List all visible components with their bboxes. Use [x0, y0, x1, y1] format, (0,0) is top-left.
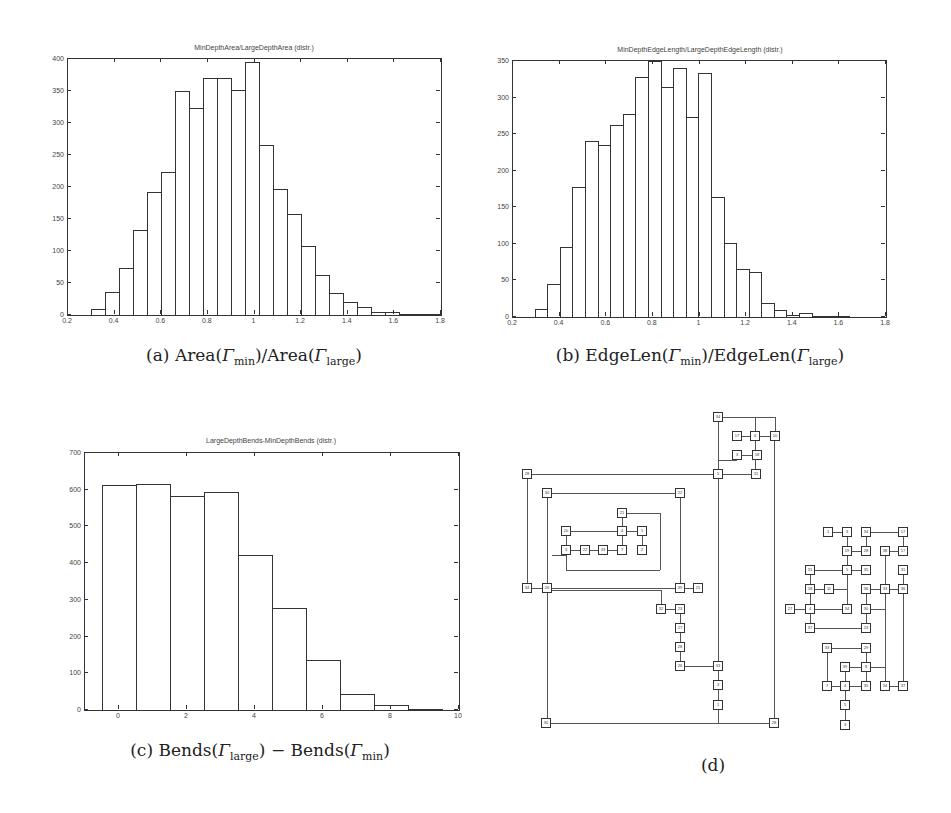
graph-node: 4 [617, 526, 627, 536]
graph-node: 39 [840, 662, 850, 672]
graph-node: 7 [822, 681, 832, 691]
graph-node: 22 [675, 488, 685, 498]
graph-node: 26 [542, 583, 552, 593]
graph-node: 27 [785, 604, 795, 614]
graph-edge [527, 474, 718, 475]
graph-node: 18 [805, 584, 815, 594]
graph-node: 5 [713, 469, 723, 479]
graph-node: 19 [842, 546, 852, 556]
graph-node: 30 [861, 604, 871, 614]
graph-node: 1 [713, 700, 723, 710]
graph-node: 33 [822, 643, 832, 653]
graph-node: 29 [861, 643, 871, 653]
graph-node: 27 [675, 623, 685, 633]
graph-node: 38 [880, 546, 890, 556]
graph-node: 8 [861, 662, 871, 672]
graph-node: 35 [861, 565, 871, 575]
graph-node: 31 [751, 469, 761, 479]
graph-node: 26 [675, 661, 685, 671]
graph-edge [845, 667, 846, 725]
graph-edge [718, 417, 775, 418]
graph-edge [810, 570, 811, 628]
graph-node: 33 [598, 545, 608, 555]
graph-node: 28 [675, 642, 685, 652]
graph-node: 32 [656, 604, 666, 614]
graph-edge [527, 588, 698, 589]
graph-node: 33 [713, 661, 723, 671]
graph-edge [552, 555, 566, 556]
graph-node: 2 [637, 545, 647, 555]
graph-edge [774, 436, 775, 723]
orthogonal-graph-drawing: 3417610318531283022212041322337234263925… [0, 0, 951, 813]
graph-node: 23 [675, 604, 685, 614]
graph-node: 1 [823, 527, 833, 537]
graph-edge [547, 590, 661, 591]
graph-node: 33 [880, 584, 890, 594]
graph-node: 34 [861, 527, 871, 537]
graph-node: 31 [805, 565, 815, 575]
graph-node: 34 [522, 583, 532, 593]
graph-node: 3 [713, 680, 723, 690]
graph-node: 3 [732, 450, 742, 460]
graph-node: 39 [675, 583, 685, 593]
graph-node: 20 [561, 526, 571, 536]
graph-edge [566, 550, 622, 551]
graph-node: 18 [752, 450, 762, 460]
graph-node: 3 [840, 720, 850, 730]
graph-node: 3 [842, 527, 852, 537]
figure-caption: (d) [701, 755, 725, 775]
graph-node: 31 [898, 565, 908, 575]
graph-node: 17 [898, 546, 908, 556]
graph-node: 5 [842, 565, 852, 575]
graph-node: 6 [750, 431, 760, 441]
graph-edge [547, 493, 680, 494]
graph-node: 4 [840, 681, 850, 691]
graph-node: 7 [617, 545, 627, 555]
graph-node: 22 [580, 545, 590, 555]
graph-node: 36 [861, 584, 871, 594]
graph-edge [885, 551, 886, 686]
graph-node: 28 [522, 469, 532, 479]
graph-node: 36 [898, 584, 908, 594]
graph-node: 34 [880, 681, 890, 691]
graph-node: 21 [617, 508, 627, 518]
graph-node: 37 [805, 623, 815, 633]
graph-node: 1 [637, 526, 647, 536]
graph-node: 17 [898, 527, 908, 537]
graph-node: 3 [561, 545, 571, 555]
graph-edge [660, 513, 661, 570]
graph-edge [547, 493, 548, 723]
graph-node: 5 [840, 700, 850, 710]
graph-edge [680, 609, 681, 666]
graph-edge [680, 493, 681, 588]
graph-edge [790, 609, 847, 610]
graph-edge [622, 513, 660, 514]
graph-node: 34 [842, 604, 852, 614]
graph-edge [810, 628, 866, 629]
graph-node: 17 [732, 431, 742, 441]
graph-node: 37 [898, 681, 908, 691]
graph-node: 30 [541, 718, 551, 728]
graph-edge [755, 417, 756, 474]
graph-edge [566, 570, 660, 571]
graph-node: 23 [861, 623, 871, 633]
graph-edge [718, 460, 737, 461]
graph-node: 28 [861, 546, 871, 556]
graph-node: 25 [693, 583, 703, 593]
graph-node: 4 [805, 604, 815, 614]
graph-edge [546, 723, 774, 724]
graph-node: 30 [542, 488, 552, 498]
graph-node: 28 [769, 718, 779, 728]
graph-edge [527, 474, 528, 588]
graph-node: 34 [713, 412, 723, 422]
graph-node: 10 [770, 431, 780, 441]
graph-node: 11 [824, 584, 834, 594]
graph-edge [566, 531, 622, 532]
graph-node: 35 [861, 681, 871, 691]
